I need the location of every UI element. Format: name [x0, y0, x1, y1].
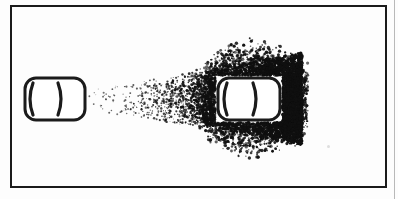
figure-border [10, 5, 387, 188]
figure-root [0, 0, 398, 199]
scan-speck [327, 145, 330, 148]
adjacent-panel-rule [394, 0, 395, 199]
